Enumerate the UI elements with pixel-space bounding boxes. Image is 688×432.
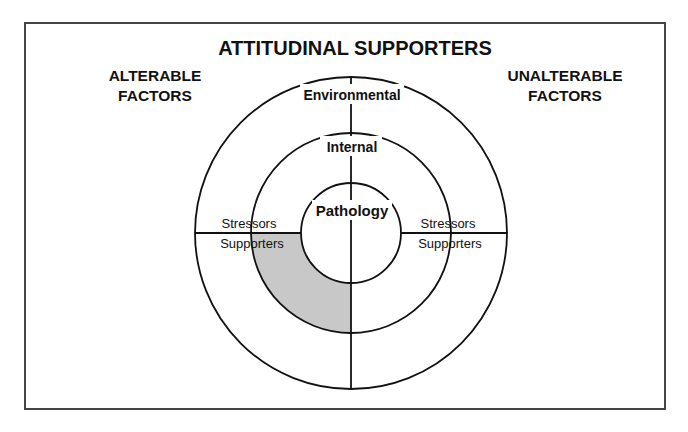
diagram-title: ATTITUDINAL SUPPORTERS	[218, 37, 492, 59]
alterable-label-line2: FACTORS	[118, 87, 192, 104]
alterable-label-line1: ALTERABLE	[109, 67, 202, 84]
right-supporters-label: Supporters	[418, 236, 482, 251]
unalterable-label-line1: UNALTERABLE	[507, 67, 622, 84]
pathology-label: Pathology	[316, 202, 389, 219]
internal-label: Internal	[327, 139, 378, 155]
right-stressors-label: Stressors	[421, 216, 476, 231]
environmental-label: Environmental	[303, 87, 400, 103]
unalterable-label-line2: FACTORS	[528, 87, 602, 104]
left-stressors-label: Stressors	[222, 216, 277, 231]
left-supporters-label: Supporters	[220, 236, 284, 251]
concentric-diagram: ATTITUDINAL SUPPORTERS ALTERABLE FACTORS…	[0, 0, 688, 432]
